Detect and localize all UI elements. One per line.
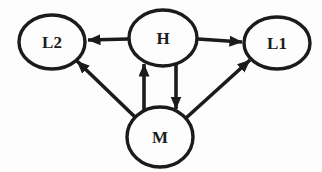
node-M-label: M [152,128,168,147]
node-L1-label: L1 [267,34,287,53]
edge-H-to-L2 [88,39,128,40]
nodes-layer: L2HL1M [19,10,310,167]
edge-H-to-L1 [198,39,242,42]
diagram-svg: L2HL1M [0,0,322,172]
node-L2-label: L2 [42,33,62,52]
node-H: H [129,10,197,66]
node-L1: L1 [244,17,310,69]
node-H-label: H [156,29,169,48]
edge-M-to-L2 [77,61,135,117]
edge-M-to-L1 [186,60,250,118]
node-M: M [127,107,193,167]
node-L2: L2 [19,15,85,69]
diagram-canvas: L2HL1M [0,0,322,172]
